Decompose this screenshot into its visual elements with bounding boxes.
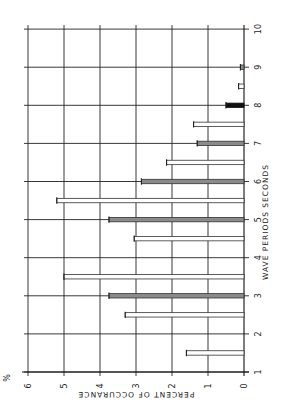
period-tick-label: 2 (254, 331, 263, 336)
period-tick-label: 10 (254, 24, 263, 34)
percent-tick-label: 0 (240, 383, 249, 388)
bar-period-1.5 (186, 351, 244, 355)
percent-tick-label: 2 (168, 383, 177, 388)
period-tick-label: 9 (254, 65, 263, 70)
period-tick-label: 1 (254, 369, 263, 374)
bar-period-4.5 (134, 236, 244, 240)
y-axis-title: PERCENT OF OCCURANCE (78, 390, 195, 399)
period-tick-label: 3 (254, 293, 263, 298)
period-tick-label: 7 (254, 141, 263, 146)
percent-occurrence-chart: 123456789100123456 WAVE PERIODS SECONDS … (0, 0, 288, 415)
percent-tick-label: 6 (24, 383, 33, 388)
percent-unit-label: % (3, 374, 12, 382)
bar-period-3.5 (64, 275, 244, 279)
bars (57, 64, 244, 356)
bar-period-5 (109, 217, 244, 221)
bar-period-3 (109, 294, 244, 298)
bar-period-8.5 (239, 84, 244, 88)
bar-period-7 (197, 141, 244, 145)
percent-tick-label: 1 (204, 383, 213, 388)
bar-period-6 (141, 179, 244, 183)
percent-tick-label: 4 (96, 383, 105, 388)
x-axis-title: WAVE PERIODS SECONDS (261, 164, 270, 280)
bar-period-2.5 (125, 313, 244, 317)
percent-tick-label: 3 (132, 383, 141, 388)
percent-tick-label: 5 (60, 383, 69, 388)
bar-period-5.5 (57, 198, 244, 202)
period-tick-label: 8 (254, 103, 263, 108)
bar-period-8 (226, 103, 244, 107)
bar-period-6.5 (167, 160, 244, 164)
bar-period-7.5 (194, 122, 244, 126)
